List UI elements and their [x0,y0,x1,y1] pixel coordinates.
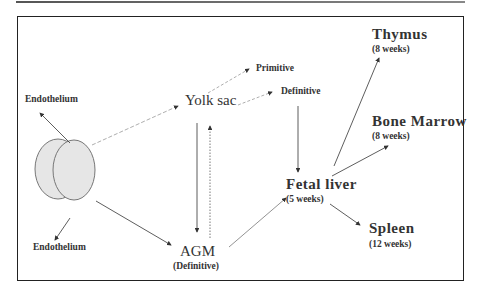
label-bone-marrow-sub: (8 weeks) [372,131,410,141]
arrow-embryo-endothelium-bottom [55,218,70,240]
arrow-fetal-liver-thymus [334,58,379,166]
arrow-embryo-endothelium-top [40,113,70,143]
arrow-yolk-primitive [208,69,249,93]
label-definitive-yolk: Definitive [281,86,321,96]
label-yolk-sac: Yolk sac [185,92,236,109]
arrow-embryo-yolk-sac [92,106,178,145]
label-agm-sub: (Definitive) [173,261,219,271]
label-thymus: Thymus [372,26,428,43]
label-agm: AGM [180,243,215,260]
label-bone-marrow: Bone Marrow [372,113,467,130]
label-spleen-sub: (12 weeks) [369,239,411,249]
label-endothelium-top: Endothelium [25,94,78,104]
arrow-embryo-agm [96,201,171,245]
arrow-agm-fetal-liver [229,198,286,247]
label-endothelium-bottom: Endothelium [33,242,86,252]
label-fetal-liver: Fetal liver [286,176,357,193]
arrow-yolk-definitive [238,92,272,105]
embryo-ellipse-front [53,140,95,200]
label-spleen: Spleen [369,220,415,237]
label-thymus-sub: (8 weeks) [372,44,410,54]
label-fetal-liver-sub: (5 weeks) [286,194,324,204]
arrow-fetal-liver-spleen [330,204,360,225]
label-primitive: Primitive [256,63,294,73]
